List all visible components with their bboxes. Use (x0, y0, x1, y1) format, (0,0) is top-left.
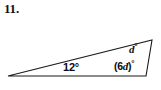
angle-label-apex-right: d° (129, 44, 137, 55)
degree-symbol: ° (131, 59, 134, 68)
degree-symbol: ° (134, 42, 137, 51)
paren-open: (6 (114, 60, 123, 72)
problem-figure-page: 11. 12° d° (6d)° (0, 0, 161, 90)
angle-label-base-left: 12° (63, 62, 79, 73)
angle-label-base-right: (6d)° (114, 61, 134, 72)
